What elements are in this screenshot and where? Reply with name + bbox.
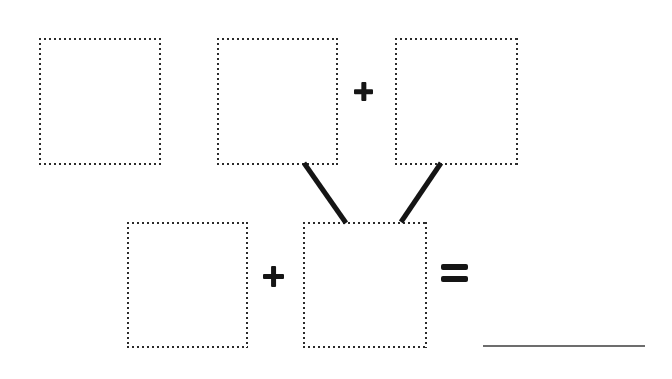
equals-icon	[441, 264, 468, 282]
connector-right-diagonal	[401, 163, 441, 222]
blank-box-bottom-left[interactable]	[127, 222, 248, 348]
blank-box-top-left[interactable]	[39, 38, 161, 165]
plus-vertical-bar	[361, 82, 366, 101]
blank-box-top-right[interactable]	[395, 38, 518, 165]
plus-icon-top	[354, 82, 373, 101]
blank-box-bottom-middle[interactable]	[303, 222, 427, 348]
plus-vertical-bar	[271, 266, 277, 287]
connector-left-diagonal	[304, 163, 346, 223]
equals-top-bar	[441, 264, 468, 270]
worksheet-canvas	[0, 0, 672, 379]
plus-icon-bottom	[263, 266, 284, 287]
equals-bottom-bar	[441, 276, 468, 282]
answer-blank-line[interactable]	[483, 345, 645, 347]
blank-box-top-middle[interactable]	[217, 38, 338, 165]
